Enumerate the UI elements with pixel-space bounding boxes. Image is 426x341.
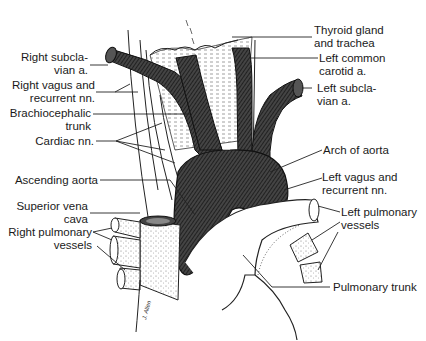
- label-line: vian a.: [14, 64, 88, 77]
- label-pulmonary-trunk: Pulmonary trunk: [333, 281, 417, 294]
- label-right-subclavian: Right subcla- vian a.: [14, 51, 88, 77]
- label-line: Left pulmonary: [341, 206, 417, 219]
- label-line: Brachiocephalic: [2, 107, 91, 120]
- label-line: and trachea: [314, 37, 384, 50]
- label-line: Cardiac nn.: [14, 135, 94, 148]
- label-line: Left subcla-: [317, 82, 376, 95]
- label-left-pulmonary-vessels: Left pulmonary vessels: [341, 206, 417, 232]
- label-brachiocephalic-trunk: Brachiocephalic trunk: [2, 107, 91, 133]
- label-line: vessels: [341, 219, 417, 232]
- artist-signature: J. Allen: [141, 299, 152, 321]
- label-line: Arch of aorta: [323, 144, 389, 157]
- aortic-arch-diagram: J. Allen Right subcla-: [0, 0, 426, 341]
- right-pulmonary-vessels: [110, 218, 140, 332]
- label-line: Superior vena: [10, 200, 88, 213]
- label-line: Left vagus and: [322, 171, 397, 184]
- label-line: Left common: [319, 52, 385, 65]
- superior-vena-cava: [140, 216, 180, 300]
- label-arch-of-aorta: Arch of aorta: [323, 144, 389, 157]
- label-line: Right pulmonary: [4, 226, 92, 239]
- label-line: vian a.: [317, 95, 376, 108]
- label-line: Thyroid gland: [314, 24, 384, 37]
- label-right-vagus: Right vagus and recurrent nn.: [6, 79, 95, 105]
- label-ascending-aorta: Ascending aorta: [4, 174, 98, 187]
- label-cardiac-nerves: Cardiac nn.: [14, 135, 94, 148]
- label-left-vagus: Left vagus and recurrent nn.: [322, 171, 397, 197]
- label-superior-vena-cava: Superior vena cava: [10, 200, 88, 226]
- label-line: Right subcla-: [14, 51, 88, 64]
- left-pulmonary-vessels: [290, 233, 322, 283]
- label-line: Pulmonary trunk: [333, 281, 417, 294]
- label-line: trunk: [2, 120, 91, 133]
- label-line: vessels: [4, 239, 92, 252]
- label-line: cava: [10, 213, 88, 226]
- label-right-pulmonary-vessels: Right pulmonary vessels: [4, 226, 92, 252]
- label-line: Right vagus and: [6, 79, 95, 92]
- label-line: recurrent nn.: [322, 184, 397, 197]
- label-line: Ascending aorta: [4, 174, 98, 187]
- label-line: carotid a.: [319, 65, 385, 78]
- label-thyroid-trachea: Thyroid gland and trachea: [314, 24, 384, 50]
- label-left-subclavian: Left subcla- vian a.: [317, 82, 376, 108]
- label-left-common-carotid: Left common carotid a.: [319, 52, 385, 78]
- label-line: recurrent nn.: [6, 92, 95, 105]
